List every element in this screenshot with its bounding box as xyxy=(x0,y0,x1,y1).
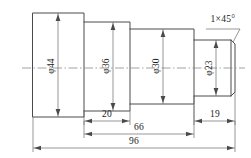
note-chamfer: 1×45° xyxy=(206,14,240,42)
phi30-arrow-bottom xyxy=(161,96,166,103)
technical-drawing-canvas: φ44 φ36 φ30 φ23 1×45° xyxy=(0,0,251,158)
len96-label: 96 xyxy=(129,136,139,146)
phi30-arrow-top xyxy=(161,30,166,37)
chamfer-note-label: 1×45° xyxy=(211,14,236,24)
len19-label: 19 xyxy=(210,109,220,119)
step-3-outline xyxy=(130,29,194,104)
dimension-phi30: φ30 xyxy=(151,29,165,104)
dimension-length-20: 20 xyxy=(84,109,130,125)
phi23-arrow-bottom xyxy=(214,88,219,95)
dimension-phi44: φ44 xyxy=(46,13,60,117)
phi36-arrow-top xyxy=(111,23,116,30)
phi36-label: φ36 xyxy=(101,58,111,74)
len19-arrow-right xyxy=(227,119,234,124)
len66-arrow-right xyxy=(186,132,193,137)
phi44-label: φ44 xyxy=(46,58,56,74)
len20-label: 20 xyxy=(102,109,112,119)
len66-label: 66 xyxy=(134,122,144,132)
len96-arrow-right xyxy=(227,146,234,151)
phi23-arrow-top xyxy=(214,41,219,48)
len20-arrow-left xyxy=(85,119,92,124)
dimension-phi23: φ23 xyxy=(204,40,218,96)
stepped-shaft-drawing: φ44 φ36 φ30 φ23 1×45° xyxy=(0,0,251,158)
len96-arrow-left xyxy=(34,146,41,151)
len20-arrow-right xyxy=(122,119,129,124)
phi44-arrow-bottom xyxy=(56,109,61,116)
chamfer-leader-diagonal xyxy=(233,29,240,42)
phi23-label: φ23 xyxy=(204,60,214,76)
phi44-arrow-top xyxy=(56,14,61,21)
phi30-label: φ30 xyxy=(151,58,161,74)
dimension-phi36: φ36 xyxy=(101,22,115,111)
len66-arrow-left xyxy=(85,132,92,137)
dimension-length-19: 19 xyxy=(194,92,235,125)
step-1-outline xyxy=(33,13,84,117)
len19-arrow-left xyxy=(195,119,202,124)
